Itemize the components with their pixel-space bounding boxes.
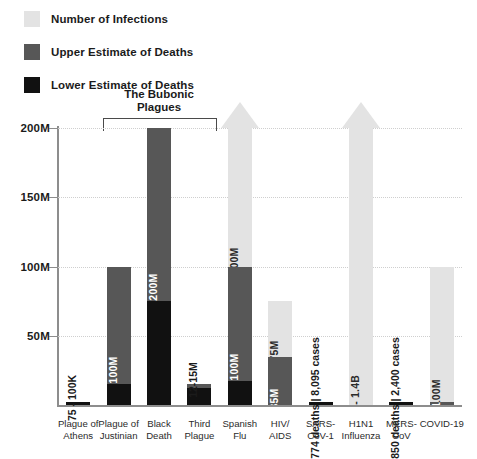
bar-segment-upper-estimate: 17-100M xyxy=(228,267,252,382)
y-axis-tick-label: 100M xyxy=(20,261,50,273)
bar-value-label-deaths: 75-200M xyxy=(147,274,159,301)
bar-segment-infections: ~100M xyxy=(430,267,454,403)
y-tick-50M xyxy=(49,336,58,337)
x-axis-label-line2: CoV xyxy=(377,430,425,442)
y-axis-tick-label: 200M xyxy=(20,122,50,134)
bar-value-label-infections: 500M xyxy=(228,247,240,267)
plot-area: 75 - 100K15-100M75-200M12-15M500M17-100M… xyxy=(58,128,462,405)
bubonic-title-line2: Plagues xyxy=(93,101,226,114)
bar-group[interactable]: 0.7 - 1.4B xyxy=(349,128,373,405)
bar-group[interactable]: 75M35M xyxy=(268,301,292,405)
legend-swatch-lower-estimate xyxy=(24,77,40,93)
y-axis-labels: 200M150M100M50M xyxy=(0,128,50,405)
bar-segment-infections: 500M xyxy=(228,128,252,267)
bar-value-label-infections: 75M xyxy=(268,340,280,357)
off-scale-arrow-icon xyxy=(342,102,380,128)
bar-value-label-infections: 0.7 - 1.4B xyxy=(349,375,361,405)
off-scale-arrow-icon xyxy=(221,102,259,128)
bar-segment-upper-estimate: 75-200M xyxy=(147,128,171,301)
bar-value-label-deaths: 2.145M xyxy=(430,402,442,405)
x-axis-labels: Plague ofAthensPlague ofJustinianBlackDe… xyxy=(58,410,462,455)
x-axis-label-line1: COVID-19 xyxy=(418,418,466,430)
legend-label-infections: Number of Infections xyxy=(51,13,168,25)
bar-segment-lower-estimate xyxy=(107,384,131,405)
bar-segment-upper-estimate: 15-100M xyxy=(107,267,131,385)
bar-segment-infections: 0.7 - 1.4B xyxy=(349,128,373,405)
gridline-150M xyxy=(58,197,462,198)
bar-group[interactable]: 500M17-100M xyxy=(228,128,252,405)
bar-segment-infections: 75M xyxy=(268,301,292,356)
legend-item-infections: Number of Infections xyxy=(24,8,194,30)
legend-label-upper-estimate: Upper Estimate of Deaths xyxy=(51,46,193,58)
bubonic-title-line1: The Bubonic xyxy=(93,88,226,101)
bar-value-label-deaths: 15-100M xyxy=(107,357,119,384)
bubonic-plagues-title: The Bubonic Plagues xyxy=(93,88,226,114)
gridline-200M xyxy=(58,128,462,129)
y-tick-100M xyxy=(49,267,58,268)
bar-segment-upper-estimate: 2.145M xyxy=(430,402,454,405)
bar-segment-upper-estimate: 35M xyxy=(268,357,292,405)
y-axis-tick-label: 50M xyxy=(27,330,50,342)
bar-value-label-deaths: 35M xyxy=(268,388,280,405)
bar-value-label-deaths: 17-100M xyxy=(228,354,240,381)
legend-swatch-upper-estimate xyxy=(24,44,40,60)
x-axis-label: COVID-19 xyxy=(418,418,466,430)
y-axis-tick-label: 150M xyxy=(20,191,50,203)
bar-group[interactable]: 75-200M xyxy=(147,128,171,405)
y-tick-200M xyxy=(49,128,58,129)
bar-segment-lower-estimate xyxy=(147,301,171,405)
bar-segment-lower-estimate xyxy=(228,381,252,405)
bar-value-label-outside: 12-15M xyxy=(187,362,199,398)
bar-value-label-infections: ~100M xyxy=(430,379,442,402)
legend-swatch-infections xyxy=(24,11,40,27)
y-tick-150M xyxy=(49,197,58,198)
legend-item-upper-estimate: Upper Estimate of Deaths xyxy=(24,41,194,63)
bar-group[interactable]: 15-100M xyxy=(107,267,131,405)
bar-group[interactable]: ~100M2.145M xyxy=(430,267,454,405)
x-axis-line xyxy=(57,405,462,407)
